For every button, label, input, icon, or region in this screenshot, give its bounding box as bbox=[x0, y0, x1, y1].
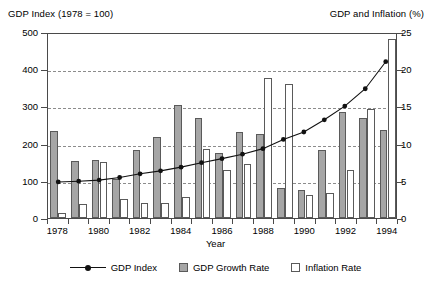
gdp-index-line-series bbox=[48, 34, 396, 219]
x-axis-tick-mark bbox=[68, 219, 69, 224]
gdp-index-data-point bbox=[322, 117, 327, 122]
x-axis-tick-mark bbox=[356, 219, 357, 224]
y2-axis-tick-mark bbox=[397, 33, 403, 34]
legend-label-inflation-rate: Inflation Rate bbox=[305, 262, 361, 273]
y-axis-tick-label: 200 bbox=[4, 140, 38, 150]
x-axis-tick-mark bbox=[129, 219, 130, 224]
x-axis-tick-label: 1986 bbox=[211, 225, 232, 236]
x-axis-tick-label: 1988 bbox=[253, 225, 274, 236]
x-axis-tick-mark bbox=[212, 219, 213, 224]
x-axis-tick-label: 1978 bbox=[47, 225, 68, 236]
x-axis-tick-mark bbox=[109, 219, 110, 224]
x-axis-tick-mark bbox=[232, 219, 233, 224]
x-axis-tick-mark bbox=[150, 219, 151, 224]
y-axis-tick-mark bbox=[41, 145, 47, 146]
y2-axis-tick-mark bbox=[397, 107, 403, 108]
gdp-index-data-point bbox=[383, 59, 388, 64]
y2-axis-tick-mark bbox=[397, 219, 403, 220]
gdp-index-line bbox=[58, 62, 386, 182]
x-axis-tick-label: 1994 bbox=[376, 225, 397, 236]
y2-axis-tick-label: 15 bbox=[401, 102, 427, 112]
y-axis-tick-mark bbox=[41, 219, 47, 220]
y2-axis-tick-mark bbox=[397, 70, 403, 71]
x-axis-tick-mark bbox=[376, 219, 377, 224]
y-axis-tick-label: 100 bbox=[4, 177, 38, 187]
x-axis-title: Year bbox=[0, 238, 431, 249]
gdp-index-data-point bbox=[76, 179, 81, 184]
y-axis-tick-label: 500 bbox=[4, 28, 38, 38]
x-axis-tick-mark bbox=[315, 219, 316, 224]
y2-axis-tick-label: 0 bbox=[401, 214, 427, 224]
x-axis-tick-label: 1982 bbox=[129, 225, 150, 236]
gdp-index-data-point bbox=[301, 130, 306, 135]
inflation-swatch-icon bbox=[291, 263, 300, 272]
chart-container: GDP Index (1978 = 100) GDP and Inflation… bbox=[0, 0, 431, 288]
y-axis-tick-mark bbox=[41, 33, 47, 34]
y-axis-tick-mark bbox=[41, 107, 47, 108]
line-swatch-icon bbox=[70, 263, 106, 272]
x-axis-tick-label: 1992 bbox=[335, 225, 356, 236]
x-axis-tick-label: 1984 bbox=[170, 225, 191, 236]
y-axis-tick-label: 400 bbox=[4, 65, 38, 75]
gdp-index-data-point bbox=[342, 104, 347, 109]
gdp-index-data-point bbox=[261, 146, 266, 151]
y2-axis-tick-mark bbox=[397, 145, 403, 146]
x-axis-tick-mark bbox=[191, 219, 192, 224]
x-axis-tick-mark bbox=[273, 219, 274, 224]
legend-item-gdp-growth-rate: GDP Growth Rate bbox=[179, 262, 269, 273]
gdp-index-data-point bbox=[179, 165, 184, 170]
gdp-index-data-point bbox=[363, 86, 368, 91]
gdp-index-data-point bbox=[158, 168, 163, 173]
plot-area bbox=[47, 33, 397, 219]
x-axis-tick-mark bbox=[294, 219, 295, 224]
legend-label-gdp-growth-rate: GDP Growth Rate bbox=[193, 262, 269, 273]
y2-axis-tick-label: 10 bbox=[401, 140, 427, 150]
gdp-index-data-point bbox=[220, 156, 225, 161]
x-axis-tick-label: 1980 bbox=[88, 225, 109, 236]
left-axis-caption: GDP Index (1978 = 100) bbox=[8, 8, 113, 19]
y-axis-tick-mark bbox=[41, 182, 47, 183]
legend-item-gdp-index: GDP Index bbox=[70, 262, 157, 273]
gdp-index-data-point bbox=[199, 160, 204, 165]
x-axis-tick-mark bbox=[171, 219, 172, 224]
right-axis-caption: GDP and Inflation (%) bbox=[330, 8, 424, 19]
x-axis-tick-mark bbox=[88, 219, 89, 224]
y2-axis-tick-label: 5 bbox=[401, 177, 427, 187]
gdp-index-data-point bbox=[138, 171, 143, 176]
y-axis-tick-label: 300 bbox=[4, 102, 38, 112]
gdp-index-data-point bbox=[56, 180, 61, 185]
legend-item-inflation-rate: Inflation Rate bbox=[291, 262, 361, 273]
gdp-index-data-point bbox=[117, 175, 122, 180]
chart-legend: GDP Index GDP Growth Rate Inflation Rate bbox=[0, 262, 431, 273]
gdp-index-data-point bbox=[97, 178, 102, 183]
growth-swatch-icon bbox=[179, 263, 188, 272]
gdp-index-data-point bbox=[281, 137, 286, 142]
y2-axis-tick-label: 20 bbox=[401, 65, 427, 75]
y-axis-tick-mark bbox=[41, 70, 47, 71]
x-axis-tick-mark bbox=[335, 219, 336, 224]
x-axis-tick-mark bbox=[47, 219, 48, 224]
x-axis-tick-label: 1990 bbox=[294, 225, 315, 236]
y-axis-tick-label: 0 bbox=[4, 214, 38, 224]
legend-label-gdp-index: GDP Index bbox=[111, 262, 157, 273]
y2-axis-tick-mark bbox=[397, 182, 403, 183]
y2-axis-tick-label: 25 bbox=[401, 28, 427, 38]
x-axis-tick-mark bbox=[253, 219, 254, 224]
gdp-index-data-point bbox=[240, 152, 245, 157]
